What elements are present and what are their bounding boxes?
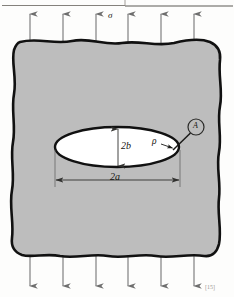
detail-callout-label: A [193,122,198,130]
figure-diagram [0,0,234,297]
minor-axis-label: 2b [121,141,131,151]
figure-container: σ 2b 2a ρ A [15] [0,0,234,297]
stress-label: σ [108,11,112,20]
elliptical-crack [55,127,179,167]
tension-arrows-bottom [30,254,194,286]
tip-radius-label: ρ [152,137,157,147]
major-axis-label: 2a [110,172,120,182]
page-rule [2,0,233,6]
citation-marker: [15] [205,284,215,290]
